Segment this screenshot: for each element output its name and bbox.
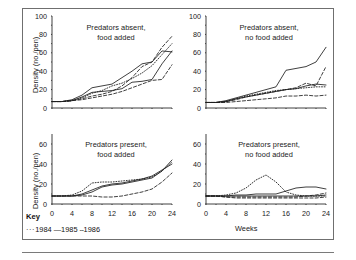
x-tick-label: 20 xyxy=(146,209,158,218)
y-tick-label: 40 xyxy=(183,160,201,169)
figure-frame: Predators absent, food added Density (no… xyxy=(22,8,334,240)
series-line-1984 xyxy=(206,175,326,196)
y-tick-label: 60 xyxy=(183,140,201,149)
x-tick-label: 16 xyxy=(126,209,138,218)
y-tick-label: 80 xyxy=(29,30,47,39)
series-line-1984 xyxy=(52,162,172,196)
figure-root: Predators absent, food added Density (no… xyxy=(0,0,356,260)
y-tick-label: 0 xyxy=(29,104,47,113)
y-tick-label: 80 xyxy=(183,30,201,39)
x-tick-label: 16 xyxy=(280,209,292,218)
x-tick-label: 24 xyxy=(320,209,332,218)
y-tick-label: 60 xyxy=(29,48,47,57)
x-tick-label: 8 xyxy=(86,209,98,218)
x-tick-label: 12 xyxy=(260,209,272,218)
x-tick-label: 0 xyxy=(200,209,212,218)
series-line-1986 xyxy=(52,36,172,101)
series-line-1985 xyxy=(206,187,326,196)
panel-title-0-line2: food added xyxy=(67,33,165,43)
x-tick-label: 24 xyxy=(166,209,178,218)
x-axis-label: Weeks xyxy=(235,224,257,233)
y-tick-label: 40 xyxy=(29,67,47,76)
y-tick-label: 0 xyxy=(183,104,201,113)
y-tick-label: 0 xyxy=(29,200,47,209)
key-year-1986: 1986 xyxy=(84,225,100,234)
panel-title-0: Predators absent, food added xyxy=(67,23,165,42)
key-year-1984: 1984 xyxy=(35,225,51,234)
series-line-1984 xyxy=(52,44,172,102)
y-tick-label: 20 xyxy=(183,180,201,189)
y-tick-label: 60 xyxy=(29,140,47,149)
panel-title-1: Predators absent, no food added xyxy=(219,23,319,42)
x-tick-label: 20 xyxy=(300,209,312,218)
panel-title-3: Predators present, no food added xyxy=(219,140,319,159)
x-tick-label: 12 xyxy=(106,209,118,218)
panel-title-3-line1: Predators present, xyxy=(219,140,319,150)
x-tick-label: 0 xyxy=(46,209,58,218)
y-tick-label: 40 xyxy=(183,67,201,76)
x-tick-label: 4 xyxy=(220,209,232,218)
series-line-1985 xyxy=(206,47,326,102)
y-tick-label: 40 xyxy=(29,160,47,169)
key-entries: ···1984 —1985 --1986 xyxy=(26,225,100,234)
x-tick-label: 8 xyxy=(240,209,252,218)
series-line-1985b xyxy=(206,84,326,102)
x-tick-label: 4 xyxy=(66,209,78,218)
panel-title-0-line1: Predators absent, xyxy=(67,23,165,33)
key-line-1984-icon: ··· xyxy=(26,225,35,234)
y-tick-label: 60 xyxy=(183,48,201,57)
panel-title-3-line2: no food added xyxy=(219,150,319,160)
series-line-1985b xyxy=(52,164,172,196)
series-line-1986b xyxy=(52,65,172,102)
key-year-1985: 1985 xyxy=(61,225,77,234)
y-tick-label: 20 xyxy=(29,85,47,94)
y-tick-label: 20 xyxy=(183,85,201,94)
key-label: Key xyxy=(26,212,40,221)
y-tick-label: 20 xyxy=(29,180,47,189)
panel-title-2-line2: food added xyxy=(67,150,165,160)
panel-title-2: Predators present, food added xyxy=(67,140,165,159)
panel-title-1-line1: Predators absent, xyxy=(219,23,319,33)
series-line-1986 xyxy=(206,67,326,103)
series-line-1985 xyxy=(52,160,172,196)
y-tick-label: 0 xyxy=(183,200,201,209)
y-tick-label: 100 xyxy=(183,12,201,21)
y-tick-label: 100 xyxy=(29,12,47,21)
key-line-1985-icon: — xyxy=(54,225,61,234)
panel-title-2-line1: Predators present, xyxy=(67,140,165,150)
panel-title-1-line2: no food added xyxy=(219,33,319,43)
footer-rule xyxy=(22,252,334,253)
